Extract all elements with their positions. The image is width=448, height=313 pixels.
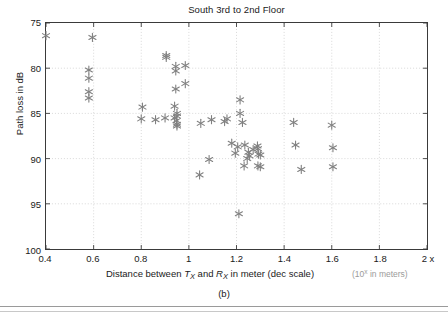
data-point-marker: [89, 33, 96, 41]
x-tick-label: 1.8: [374, 253, 387, 264]
data-point-marker: [85, 74, 92, 82]
plot-area: [45, 22, 428, 250]
x-tick-label: 1.2: [230, 253, 243, 264]
data-point-marker: [138, 115, 145, 123]
data-point-marker: [237, 96, 244, 104]
data-point-marker: [329, 144, 336, 152]
x-axis-scale-note-a: (10: [352, 269, 364, 279]
data-point-marker: [85, 94, 92, 102]
y-axis-title: Path loss in dB: [14, 44, 25, 164]
chart-title: South 3rd to 2nd Floor: [45, 4, 428, 15]
data-point-marker: [235, 210, 242, 218]
x-axis-title-rx: R: [216, 268, 223, 279]
x-tick-label: 1.6: [326, 253, 339, 264]
data-points-layer: [46, 23, 427, 249]
panel-caption: (b): [0, 288, 448, 299]
data-point-marker: [197, 119, 204, 127]
x-axis-title-part-a: Distance between: [106, 268, 184, 279]
x-axis-scale-note: (10x in meters): [352, 268, 408, 279]
data-point-marker: [85, 66, 92, 74]
bottom-divider: [0, 306, 448, 307]
data-point-marker: [239, 118, 246, 126]
x-axis-scale-note-b: in meters): [368, 269, 408, 279]
data-point-marker: [237, 109, 244, 117]
bottom-divider-secondary: [0, 311, 448, 312]
data-point-marker: [139, 103, 146, 111]
data-point-marker: [292, 141, 299, 149]
x-axis-title-part-c: in meter (dec scale): [228, 268, 314, 279]
data-point-marker: [208, 116, 215, 124]
y-tick-label: 75: [11, 17, 41, 28]
data-point-marker: [298, 165, 305, 173]
x-tick-label: 0.6: [86, 253, 99, 264]
data-point-marker: [329, 163, 336, 171]
data-point-marker: [206, 155, 213, 163]
x-tick-label: 0.8: [134, 253, 147, 264]
data-point-marker: [162, 114, 169, 122]
data-point-marker: [241, 162, 248, 170]
data-point-marker: [228, 139, 235, 147]
data-point-marker: [172, 85, 179, 93]
x-tick-label: 1.4: [278, 253, 291, 264]
x-axis-title: Distance between TX and RX in meter (dec…: [45, 268, 375, 281]
y-tick-label: 95: [11, 199, 41, 210]
x-tick-label: 2 x: [422, 253, 435, 264]
x-tick-label: 0.4: [38, 253, 51, 264]
x-axis-title-part-b: and: [195, 268, 216, 279]
data-point-marker: [290, 118, 297, 126]
data-point-marker: [241, 141, 248, 149]
data-point-marker: [152, 116, 159, 124]
data-point-marker: [328, 121, 335, 129]
data-point-marker: [182, 80, 189, 88]
x-axis-tick-labels: 0.40.60.811.21.41.61.82 x: [45, 253, 428, 267]
data-point-marker: [182, 61, 189, 69]
data-point-marker: [42, 32, 49, 40]
data-point-marker: [196, 171, 203, 179]
y-tick-label: 100: [11, 245, 41, 256]
x-tick-label: 1: [186, 253, 191, 264]
figure-panel: South 3rd to 2nd Floor 7580859095100 0.4…: [0, 0, 448, 313]
